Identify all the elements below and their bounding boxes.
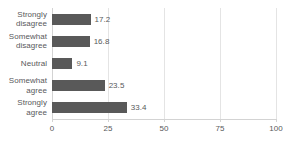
x-tick-label: 50 (160, 124, 169, 133)
category-label: Somewhat disagree (9, 32, 47, 51)
plot-area: 17.2 16.8 9.1 23.5 33.4 (52, 8, 276, 119)
gridline (276, 8, 277, 119)
x-tick-label: 100 (269, 124, 283, 133)
bar-chart: Strongly disagree Somewhat disagree Neut… (0, 0, 293, 147)
x-tick-mark (108, 119, 109, 122)
x-tick-label: 0 (50, 124, 55, 133)
x-tick-mark (220, 119, 221, 122)
bar-value-label: 9.1 (76, 59, 87, 68)
x-tick-mark (164, 119, 165, 122)
x-tick-label: 25 (104, 124, 113, 133)
bar-value-label: 23.5 (109, 81, 125, 90)
bar-series: 17.2 16.8 9.1 23.5 33.4 (52, 8, 276, 119)
bar-row: 23.5 (52, 75, 276, 97)
category-label: Somewhat agree (9, 76, 47, 95)
x-tick-label: 75 (216, 124, 225, 133)
bar (52, 102, 127, 113)
category-label: Neutral (21, 59, 47, 69)
bar (52, 80, 105, 91)
category-tick: Somewhat agree (0, 75, 50, 97)
bar (52, 36, 90, 47)
bar-row: 9.1 (52, 52, 276, 74)
x-tick-mark (52, 119, 53, 122)
x-tick-mark (276, 119, 277, 122)
category-tick: Strongly disagree (0, 8, 50, 30)
category-tick: Somewhat disagree (0, 30, 50, 52)
bar (52, 58, 72, 69)
category-label: Strongly disagree (16, 10, 47, 29)
bar-row: 33.4 (52, 97, 276, 119)
category-tick: Strongly agree (0, 97, 50, 119)
bar-value-label: 17.2 (95, 15, 111, 24)
category-axis: Strongly disagree Somewhat disagree Neut… (0, 8, 50, 119)
bar (52, 14, 91, 25)
bar-value-label: 16.8 (94, 37, 110, 46)
x-axis: 0255075100 (52, 119, 276, 139)
bar-row: 16.8 (52, 30, 276, 52)
bar-value-label: 33.4 (131, 103, 147, 112)
category-tick: Neutral (0, 52, 50, 74)
bar-row: 17.2 (52, 8, 276, 30)
category-label: Strongly agree (17, 98, 47, 117)
